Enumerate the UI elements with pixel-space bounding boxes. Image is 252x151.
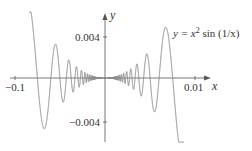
x-axis-arrow-icon xyxy=(204,76,211,81)
function-curve xyxy=(29,12,184,142)
y-axis-label: y xyxy=(110,9,115,21)
y-axis-arrow-icon xyxy=(103,13,108,20)
x-axis-label: x xyxy=(212,80,217,92)
equation-prefix: y = x xyxy=(173,27,196,39)
y-tick-label-pos: 0.004 xyxy=(75,32,100,43)
x-tick-label-pos: 0.01 xyxy=(184,82,203,93)
y-tick-label-neg: −0.004 xyxy=(69,117,100,128)
x-tick-label-neg: −0.1 xyxy=(5,82,25,93)
chart-canvas xyxy=(0,0,252,151)
equation-suffix: sin (1/x) xyxy=(200,27,240,39)
equation-label: y = x2 sin (1/x) xyxy=(173,28,239,39)
